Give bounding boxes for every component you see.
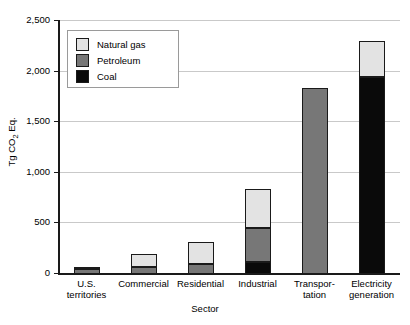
legend-swatch-natural-gas [76, 38, 89, 51]
bar-industrial [245, 189, 271, 274]
bar-transportation [302, 88, 328, 274]
bar-segment-gas [131, 254, 157, 268]
bar-electricity-generation [359, 41, 385, 274]
y-axis-tick-label: 1,500 [0, 116, 50, 126]
x-axis-label-electricity-generation: Electricity generation [334, 278, 410, 300]
y-axis-title-subscript: 2 [11, 134, 20, 138]
bar-residential [188, 242, 214, 274]
bar-segment-gas [188, 242, 214, 265]
bar-segment-gas [245, 189, 271, 228]
y-axis-title-prefix: Tg CO [6, 138, 17, 166]
bar-segment-pet [74, 269, 100, 274]
x-axis-title: Sector [0, 303, 410, 314]
legend-label-coal: Coal [97, 71, 117, 83]
bar-segment-coal [245, 262, 271, 274]
legend-label-petroleum: Petroleum [97, 55, 140, 67]
legend-swatch-coal [76, 70, 89, 83]
bar-segment-gas [359, 41, 385, 76]
bar-segment-pet [302, 88, 328, 274]
chart-figure: Tg CO2 Eq. 05001,0001,5002,0002,500 U.S.… [0, 0, 410, 325]
chart-legend: Natural gas Petroleum Coal [67, 30, 179, 88]
bar-commercial [131, 254, 157, 274]
y-axis-tick-label: 500 [0, 217, 50, 227]
legend-label-natural-gas: Natural gas [97, 39, 146, 51]
bar-segment-coal [359, 77, 385, 274]
y-axis-tick-label: 0 [0, 268, 50, 278]
y-axis-tick-label: 2,000 [0, 66, 50, 76]
legend-swatch-petroleum [76, 54, 89, 67]
bar-segment-pet [188, 264, 214, 273]
y-axis-tick-label: 1,000 [0, 167, 50, 177]
bar-segment-pet [131, 267, 157, 273]
bar-segment-gas [74, 267, 100, 269]
y-axis-tick-label: 2,500 [0, 15, 50, 25]
bar-u-s-territories [74, 269, 100, 274]
bar-segment-pet [245, 228, 271, 261]
